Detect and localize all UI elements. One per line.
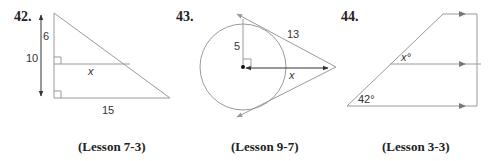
geometry-figures: 42. 6 10 x 15 (Lesson 7-3) 43. 5 13 x (L… bbox=[0, 0, 493, 161]
problem-number: 42. bbox=[14, 9, 32, 24]
label-42-degrees: 42° bbox=[358, 93, 375, 105]
problem-number: 43. bbox=[176, 9, 194, 24]
center-point bbox=[241, 65, 245, 69]
figure-42: 42. 6 10 x 15 (Lesson 7-3) bbox=[14, 9, 170, 154]
parallel-arrow-icon bbox=[459, 103, 466, 109]
label-5: 5 bbox=[234, 40, 240, 52]
lesson-reference: (Lesson 9-7) bbox=[231, 139, 299, 154]
label-x-degrees: x° bbox=[400, 51, 412, 63]
hypotenuse bbox=[54, 13, 170, 98]
label-x: x bbox=[288, 69, 295, 81]
parallel-arrow-icon bbox=[459, 11, 466, 17]
label-13: 13 bbox=[287, 28, 299, 40]
lesson-reference: (Lesson 7-3) bbox=[78, 139, 146, 154]
figure-43: 43. 5 13 x (Lesson 9-7) bbox=[176, 9, 336, 154]
label-15: 15 bbox=[102, 104, 114, 116]
label-x: x bbox=[87, 65, 94, 77]
parallel-arrow-icon bbox=[459, 61, 466, 67]
problem-number: 44. bbox=[341, 9, 359, 24]
label-10: 10 bbox=[26, 52, 38, 64]
right-angle-mark bbox=[54, 91, 61, 98]
figure-44: 44. x° 42° (Lesson 3-3) bbox=[341, 9, 481, 154]
lesson-reference: (Lesson 3-3) bbox=[382, 139, 450, 154]
tangent-line-top bbox=[237, 14, 336, 67]
tangent-line-bottom bbox=[237, 67, 336, 117]
label-6: 6 bbox=[43, 30, 49, 42]
right-angle-mark bbox=[54, 57, 61, 64]
